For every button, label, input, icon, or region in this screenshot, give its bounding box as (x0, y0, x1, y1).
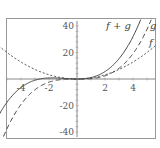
x-tick-label: 2 (102, 83, 108, 93)
y-tick-label: 20 (63, 48, 75, 58)
label-f-plus-g: f + g (105, 20, 131, 31)
label-g: g (150, 20, 156, 31)
y-tick-label: -20 (60, 101, 75, 111)
x-tick-label: 4 (130, 83, 136, 93)
y-tick-label: 40 (63, 21, 75, 31)
y-tick-label: -40 (60, 127, 75, 137)
x-tick-label: -2 (45, 83, 54, 93)
function-plot: -4-224-40-202040 f + g g f (0, 0, 160, 148)
x-tick-label: -4 (17, 83, 26, 93)
